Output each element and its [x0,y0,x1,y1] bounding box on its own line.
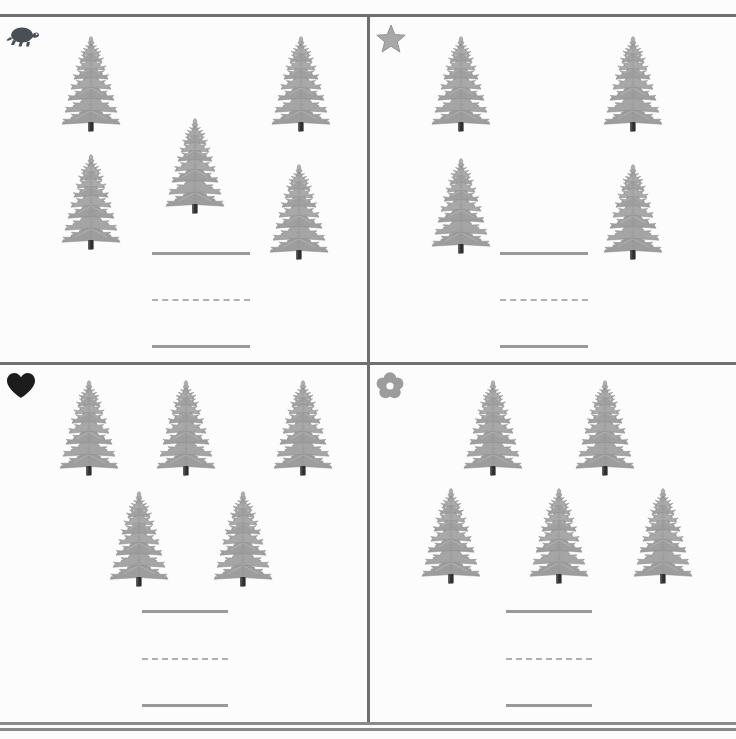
answer-line-2[interactable] [506,658,592,660]
answer-line-3[interactable] [506,704,592,707]
border-bottom-rule-inner [0,728,736,731]
star-icon [376,24,410,54]
pine-tree-icon [268,162,330,266]
quadrant-bottom-right [370,364,736,711]
pine-tree-icon [212,489,274,593]
worksheet-page [0,0,736,739]
pine-tree-icon [108,489,170,593]
turtle-icon [6,24,40,54]
answer-line-3[interactable] [500,345,588,348]
answer-line-1[interactable] [142,610,228,613]
quadrant-bottom-left [0,364,367,711]
pine-tree-icon [60,152,122,256]
pine-tree-icon [528,486,590,590]
answer-line-1[interactable] [152,252,250,255]
answer-line-2[interactable] [152,299,250,301]
answer-line-3[interactable] [152,345,250,348]
answer-line-2[interactable] [142,658,228,660]
quadrant-top-right [370,16,736,363]
pine-tree-icon [60,34,122,138]
flower-icon [376,372,410,402]
pine-tree-icon [632,486,694,590]
border-bottom-rule-outer [0,722,736,725]
answer-line-2[interactable] [500,299,588,301]
pine-tree-icon [58,378,120,482]
answer-line-1[interactable] [506,610,592,613]
pine-tree-icon [602,34,664,138]
pine-tree-icon [155,378,217,482]
quadrant-top-left [0,16,367,363]
pine-tree-icon [574,378,636,482]
pine-tree-icon [430,34,492,138]
pine-tree-icon [430,156,492,260]
answer-line-3[interactable] [142,704,228,707]
pine-tree-icon [602,162,664,266]
answer-line-1[interactable] [500,252,588,255]
pine-tree-icon [462,378,524,482]
pine-tree-icon [270,34,332,138]
pine-tree-icon [272,378,334,482]
pine-tree-icon [164,116,226,220]
heart-icon [6,372,40,402]
pine-tree-icon [420,486,482,590]
